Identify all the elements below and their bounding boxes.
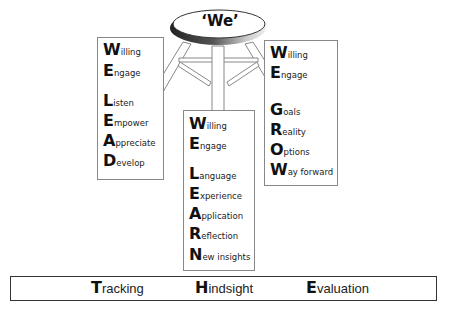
grow-row-goals: Goals bbox=[270, 102, 300, 118]
grow-row-engage: Engage bbox=[270, 65, 308, 81]
grow-row-reality: Reality bbox=[270, 122, 306, 138]
learn-row-new-insights: New insights bbox=[189, 247, 250, 263]
we-lead-box: Willing Engage Listen Empower Appreciate… bbox=[97, 37, 164, 180]
learn-row-willing: Willing bbox=[189, 116, 227, 132]
we-grow-box: Willing Engage Goals Reality Options Way… bbox=[264, 40, 338, 186]
stool-seat-label: ‘We’ bbox=[190, 12, 250, 30]
the-footer-bar: Tracking Hindsight Evaluation bbox=[10, 276, 437, 301]
learn-row-experience: Experience bbox=[189, 186, 242, 202]
footer-item-tracking: Tracking bbox=[91, 280, 144, 296]
lead-row-engage: Engage bbox=[103, 63, 141, 79]
footer-item-hindsight: Hindsight bbox=[195, 280, 253, 296]
lead-row-develop: Develop bbox=[103, 153, 145, 169]
learn-row-engage: Engage bbox=[189, 136, 227, 152]
lead-row-listen: Listen bbox=[103, 93, 134, 109]
lead-row-appreciate: Appreciate bbox=[103, 133, 156, 149]
grow-row-way-forward: Way forward bbox=[270, 162, 333, 178]
lead-row-empower: Empower bbox=[103, 113, 149, 129]
lead-row-willing: Willing bbox=[103, 42, 141, 58]
learn-row-application: Application bbox=[189, 206, 243, 222]
grow-row-options: Options bbox=[270, 142, 310, 158]
we-learn-box: Willing Engage Language Experience Appli… bbox=[183, 110, 255, 271]
learn-row-language: Language bbox=[189, 166, 236, 182]
grow-row-willing: Willing bbox=[270, 45, 308, 61]
footer-item-evaluation: Evaluation bbox=[306, 280, 369, 296]
learn-row-reflection: Reflection bbox=[189, 226, 238, 242]
